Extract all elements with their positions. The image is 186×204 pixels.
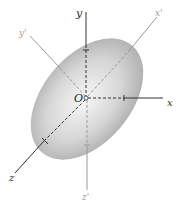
origin-marker (84, 96, 88, 100)
y-axis-label: y (75, 7, 83, 20)
y-prime-axis-label: y' (18, 28, 27, 38)
x-prime-axis (128, 17, 157, 52)
x-prime-axis-label: x' (155, 8, 163, 18)
origin-label: O (74, 92, 83, 105)
z-axis-label: z (8, 172, 15, 183)
z-axis (15, 141, 44, 173)
x-axis-label: x (167, 97, 173, 108)
y-prime-axis (30, 36, 60, 68)
z-prime-axis-label: z' (81, 192, 89, 202)
ellipsoid-diagram: O y x z x' y' z' (0, 0, 186, 204)
